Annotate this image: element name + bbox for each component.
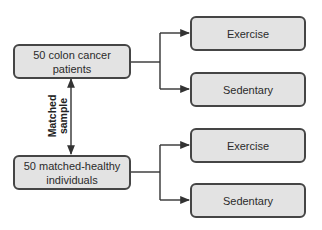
branch-connector-colon-cancer (130, 33, 189, 89)
branch-connector-healthy (130, 145, 189, 200)
target-box-sedentary-healthy: Sedentary (190, 183, 306, 218)
target-box-label: Sedentary (223, 83, 273, 97)
source-box-line2: individuals (24, 173, 121, 187)
target-box-exercise-cancer: Exercise (190, 16, 306, 51)
matched-sample-line2: sample (58, 95, 69, 138)
target-box-label: Exercise (227, 27, 269, 41)
source-box-matched-healthy-individuals: 50 matched-healthy individuals (13, 155, 131, 190)
target-box-label: Sedentary (223, 194, 273, 208)
target-box-exercise-healthy: Exercise (190, 128, 306, 163)
source-box-line2: patients (33, 62, 111, 76)
matched-sample-label: Matched sample (47, 95, 69, 138)
source-box-line1: 50 matched-healthy (24, 159, 121, 173)
target-box-sedentary-cancer: Sedentary (190, 72, 306, 107)
target-box-label: Exercise (227, 139, 269, 153)
source-box-colon-cancer-patients: 50 colon cancer patients (13, 44, 131, 79)
source-box-line1: 50 colon cancer (33, 48, 111, 62)
